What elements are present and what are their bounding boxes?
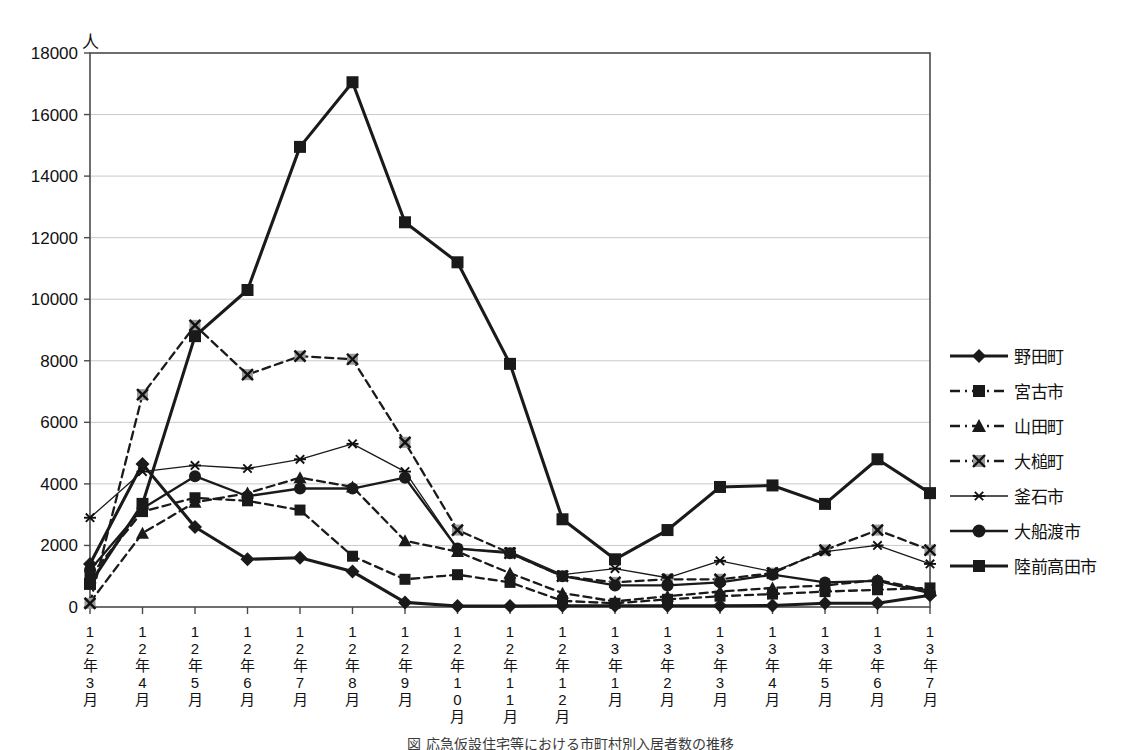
legend-marker-square-icon: [948, 380, 1010, 402]
x-tick-12年4月: 12年4月: [121, 623, 165, 708]
marker-x: [973, 455, 985, 467]
legend-label: 釜石市: [1010, 483, 1064, 508]
x-tick-13年2月: 13年2月: [646, 623, 690, 708]
x-tick-12年12月: 12年12月: [541, 623, 585, 725]
legend-item-大槌町[interactable]: 大槌町: [948, 443, 1138, 478]
marker-square: [973, 560, 985, 572]
x-tick-13年3月: 13年3月: [698, 623, 742, 708]
figure-caption: 図 応急仮設住宅等における市町村別入居者数の推移: [0, 733, 1141, 750]
marker-asterisk: [973, 491, 985, 499]
legend-label: 大船渡市: [1010, 518, 1080, 543]
x-tick-12年10月: 12年10月: [436, 623, 480, 725]
marker-diamond: [972, 349, 986, 363]
x-tick-13年6月: 13年6月: [856, 623, 900, 708]
legend-item-野田町[interactable]: 野田町: [948, 338, 1138, 373]
legend-item-宮古市[interactable]: 宮古市: [948, 373, 1138, 408]
legend-item-陸前高田市[interactable]: 陸前高田市: [948, 548, 1138, 583]
legend-item-山田町[interactable]: 山田町: [948, 408, 1138, 443]
x-tick-12年8月: 12年8月: [331, 623, 375, 708]
x-tick-12年11月: 12年11月: [488, 623, 532, 725]
legend-marker-asterisk-icon: [948, 485, 1010, 507]
x-tick-13年7月: 13年7月: [908, 623, 952, 708]
x-tick-12年7月: 12年7月: [278, 623, 322, 708]
chart-legend: 野田町宮古市山田町大槌町釜石市大船渡市陸前高田市: [948, 338, 1138, 583]
x-tick-12年3月: 12年3月: [68, 623, 112, 708]
legend-label: 陸前高田市: [1010, 553, 1097, 578]
legend-marker-circle-icon: [948, 520, 1010, 542]
legend-marker-x-icon: [948, 450, 1010, 472]
chart-root: 人 02000400060008000100001200014000160001…: [0, 0, 1141, 750]
legend-item-大船渡市[interactable]: 大船渡市: [948, 513, 1138, 548]
x-tick-13年1月: 13年1月: [593, 623, 637, 708]
legend-item-釜石市[interactable]: 釜石市: [948, 478, 1138, 513]
x-tick-12年6月: 12年6月: [226, 623, 270, 708]
legend-label: 山田町: [1010, 413, 1064, 438]
legend-label: 大槌町: [1010, 448, 1064, 473]
legend-marker-triangle-icon: [948, 415, 1010, 437]
marker-circle: [973, 524, 986, 537]
marker-square: [973, 385, 985, 397]
x-tick-12年9月: 12年9月: [383, 623, 427, 708]
x-tick-13年5月: 13年5月: [803, 623, 847, 708]
legend-label: 宮古市: [1010, 378, 1064, 403]
legend-marker-square-icon: [948, 555, 1010, 577]
x-tick-13年4月: 13年4月: [751, 623, 795, 708]
x-tick-12年5月: 12年5月: [173, 623, 217, 708]
legend-label: 野田町: [1010, 343, 1064, 368]
legend-marker-diamond-icon: [948, 345, 1010, 367]
